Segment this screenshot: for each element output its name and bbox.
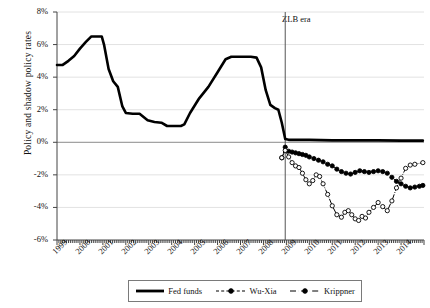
series-marker-wu-xia [326, 162, 330, 166]
legend-swatch-wu-xia [215, 286, 247, 296]
y-tick-label: -4% [18, 201, 48, 211]
series-marker-wu-xia [371, 170, 375, 174]
series-marker-krippner [339, 215, 343, 219]
series-marker-wu-xia [381, 170, 385, 174]
legend-swatch-krippner [289, 286, 321, 296]
y-tick-label: -6% [18, 234, 48, 244]
series-marker-wu-xia [316, 158, 320, 162]
series-marker-krippner [376, 200, 380, 204]
series-marker-krippner [385, 209, 389, 213]
chart-legend: Fed funds Wu-Xia Krippner [128, 280, 362, 302]
series-marker-wu-xia [339, 170, 343, 174]
series-marker-krippner [371, 205, 375, 209]
series-marker-wu-xia [408, 186, 412, 190]
legend-item-krippner: Krippner [289, 286, 355, 296]
series-marker-krippner [321, 182, 325, 186]
series-marker-krippner [290, 161, 294, 165]
series-marker-krippner [350, 213, 354, 217]
series-marker-wu-xia [404, 184, 408, 188]
series-marker-wu-xia [399, 182, 403, 186]
series-marker-krippner [297, 165, 301, 169]
legend-label-krippner: Krippner [324, 286, 355, 296]
series-marker-krippner [413, 162, 417, 166]
series-marker-wu-xia [321, 160, 325, 164]
series-marker-krippner [283, 148, 287, 152]
series-marker-wu-xia [353, 170, 357, 174]
series-marker-wu-xia [376, 169, 380, 173]
figure: Policy and shadow policy rates ZLB era F… [0, 0, 430, 308]
series-marker-krippner [335, 213, 339, 217]
series-marker-krippner [381, 205, 385, 209]
series-marker-krippner [404, 166, 408, 170]
series-marker-krippner [394, 186, 398, 190]
series-marker-wu-xia [349, 172, 353, 176]
series-marker-krippner [363, 216, 367, 220]
y-tick-label: 4% [18, 71, 48, 81]
series-marker-krippner [390, 199, 394, 203]
series-marker-wu-xia [362, 170, 366, 174]
y-tick-label: 0% [18, 136, 48, 146]
series-marker-krippner [311, 178, 315, 182]
series-marker-krippner [300, 171, 304, 175]
legend-item-fed-funds: Fed funds [135, 286, 202, 296]
series-marker-krippner [326, 192, 330, 196]
series-marker-wu-xia [335, 167, 339, 171]
legend-item-wu-xia: Wu-Xia [215, 286, 277, 296]
y-tick-label: 2% [18, 104, 48, 114]
y-tick-label: 8% [18, 6, 48, 16]
series-marker-wu-xia [367, 170, 371, 174]
legend-swatch-fed-funds [135, 286, 165, 296]
series-marker-wu-xia [312, 156, 316, 160]
series-marker-krippner [304, 178, 308, 182]
y-tick-label: -2% [18, 169, 48, 179]
y-tick-label: 6% [18, 39, 48, 49]
series-marker-krippner [399, 176, 403, 180]
series-marker-wu-xia [390, 175, 394, 179]
series-marker-krippner [357, 218, 361, 222]
series-marker-wu-xia [413, 185, 417, 189]
series-marker-wu-xia [385, 171, 389, 175]
series-marker-krippner [318, 174, 322, 178]
legend-label-wu-xia: Wu-Xia [250, 286, 277, 296]
series-marker-wu-xia [330, 164, 334, 168]
series-marker-krippner [280, 156, 284, 160]
series-marker-wu-xia [358, 169, 362, 173]
series-marker-krippner [307, 182, 311, 186]
series-marker-wu-xia [394, 179, 398, 183]
series-marker-krippner [330, 204, 334, 208]
chart-canvas [0, 0, 430, 308]
series-marker-krippner [346, 209, 350, 213]
series-marker-wu-xia [344, 171, 348, 175]
series-marker-krippner [421, 161, 425, 165]
series-marker-wu-xia [421, 183, 425, 187]
legend-label-fed-funds: Fed funds [168, 286, 202, 296]
series-marker-krippner [287, 155, 291, 159]
series-marker-krippner [367, 210, 371, 214]
series-marker-krippner [408, 163, 412, 167]
series-line-fed-funds [57, 36, 423, 140]
series-marker-wu-xia [307, 155, 311, 159]
